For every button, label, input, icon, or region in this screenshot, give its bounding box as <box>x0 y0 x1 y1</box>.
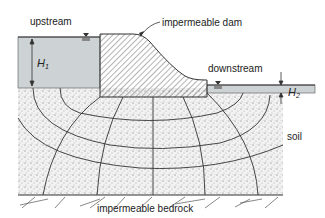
upstream-water <box>18 37 100 88</box>
bedrock-label: impermeable bedrock <box>97 203 194 214</box>
soil-label: soil <box>287 131 302 142</box>
upstream-label: upstream <box>30 16 72 27</box>
dam-label: impermeable dam <box>162 17 242 28</box>
impermeable-dam <box>100 34 207 97</box>
dam-callout-arrow <box>139 22 160 37</box>
downstream-label: downstream <box>208 63 262 74</box>
seepage-diagram: upstream impermeable dam downstream H1 H… <box>0 0 325 218</box>
